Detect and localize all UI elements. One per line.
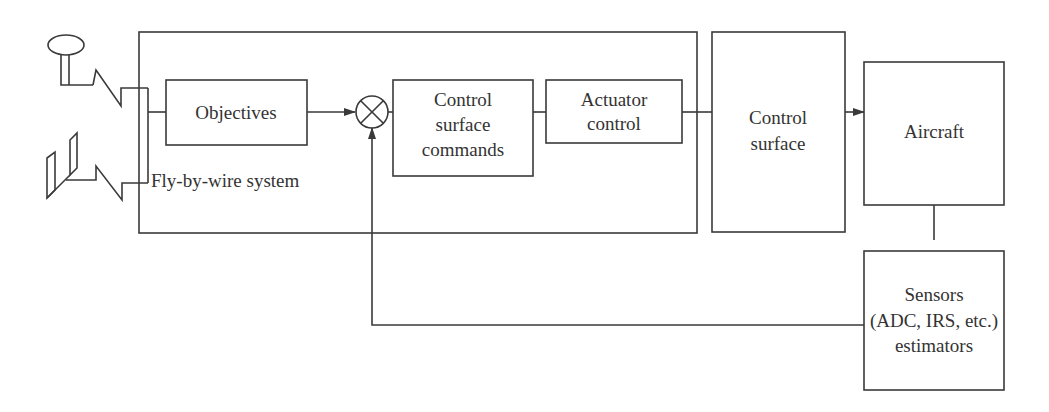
aircraft-label: Aircraft: [904, 121, 965, 142]
commands-label-line1: Control: [434, 89, 492, 110]
control-stick-icon: [48, 35, 148, 106]
commands-label-line3: commands: [422, 139, 504, 160]
fly-by-wire-system-label: Fly-by-wire system: [151, 170, 300, 191]
control-surface-label-line1: Control: [749, 107, 807, 128]
sensors-label-line3: estimators: [895, 335, 973, 356]
sensors-label-line2: (ADC, IRS, etc.): [870, 310, 998, 332]
control-surface-label-line2: surface: [751, 133, 806, 154]
actuator-label-line2: control: [587, 113, 641, 134]
control-surface-block: [712, 32, 845, 232]
commands-label-line2: surface: [436, 114, 491, 135]
sensors-label-line1: Sensors: [904, 284, 963, 305]
summing-junction-icon: [356, 96, 388, 128]
actuator-label-line1: Actuator: [581, 89, 648, 110]
objectives-label: Objectives: [195, 102, 276, 123]
fly-by-wire-diagram: Fly-by-wire system Objectives Control su…: [0, 0, 1049, 412]
rudder-pedals-icon: [47, 133, 148, 200]
